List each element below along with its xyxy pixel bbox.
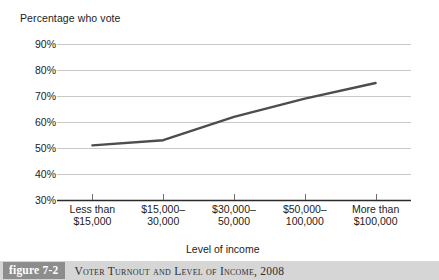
plot-area <box>0 30 439 215</box>
figure-voter-turnout: Percentage who vote 90%80%70%60%50%40%30… <box>0 0 439 280</box>
data-series-line <box>92 83 375 145</box>
x-axis-tick-label: More than$100,000 <box>328 203 424 228</box>
x-axis-tick-label-line: $100,000 <box>328 215 424 227</box>
x-axis-tick-label-line: More than <box>328 203 424 215</box>
figure-number-badge: figure 7-2 <box>3 262 65 279</box>
figure-caption-text: Voter Turnout and Level of Income, 2008 <box>74 265 284 277</box>
figure-caption-bar: figure 7-2 Voter Turnout and Level of In… <box>0 261 439 280</box>
line-chart-svg <box>0 30 439 215</box>
x-axis-title: Level of income <box>186 243 260 255</box>
x-axis-tick-labels: Less than$15,000$15,000–30,000$30,000–50… <box>55 203 415 237</box>
y-axis-title: Percentage who vote <box>20 12 121 24</box>
